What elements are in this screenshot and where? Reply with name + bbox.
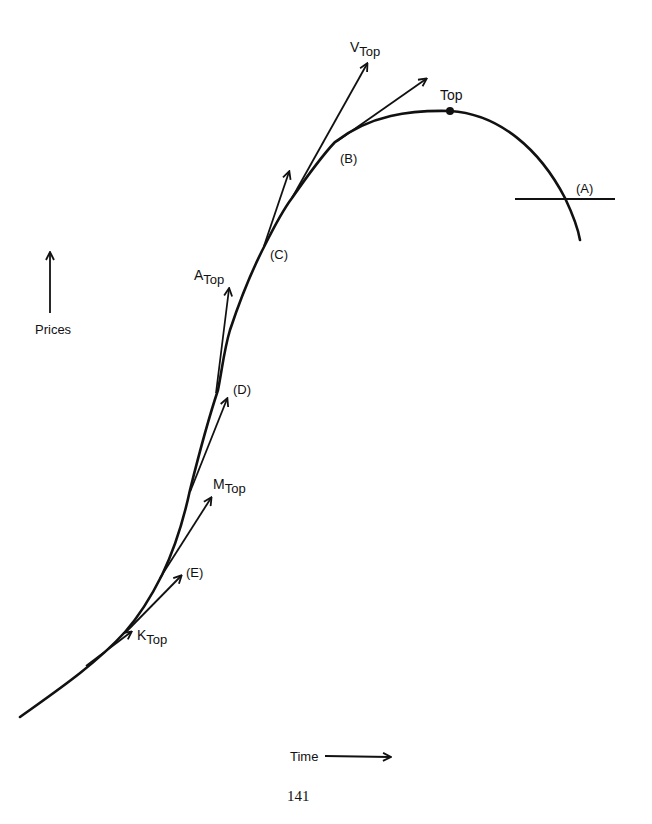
label-point-e: (E)	[186, 566, 203, 579]
label-a-top: ATop	[194, 268, 224, 282]
label-point-c: (C)	[270, 248, 288, 261]
price-curve-diagram	[0, 0, 652, 824]
label-point-b: (B)	[340, 152, 357, 165]
price-curve	[20, 111, 580, 717]
label-v-top: VTop	[350, 40, 380, 54]
k-top-arrow	[86, 632, 131, 666]
v-top-arrow	[292, 64, 367, 198]
page-number: 141	[287, 788, 310, 805]
e-tangent-arrow	[126, 576, 181, 632]
label-k-top: KTop	[137, 628, 167, 642]
x-axis-label: Time	[290, 750, 318, 763]
label-point-d: (D)	[233, 383, 251, 396]
b-tangent-arrow	[336, 79, 426, 142]
label-point-a: (A)	[576, 182, 593, 195]
label-m-top: MTop	[213, 477, 246, 491]
label-top: Top	[440, 88, 463, 102]
y-axis-label: Prices	[35, 323, 71, 336]
top-point-marker	[446, 107, 454, 115]
time-axis-arrow	[325, 756, 390, 757]
